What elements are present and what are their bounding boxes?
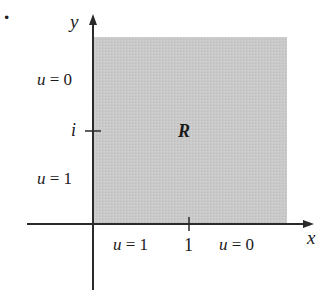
boundary-label-bottom-left: u = 1 bbox=[113, 236, 148, 253]
x-axis-label: x bbox=[307, 228, 315, 247]
y-tick-label-i: i bbox=[71, 121, 76, 139]
boundary-eq: = 0 bbox=[232, 235, 254, 254]
figure-bullet: · bbox=[3, 6, 10, 28]
region-label: R bbox=[178, 122, 190, 140]
diagram-canvas bbox=[0, 0, 328, 292]
y-axis-label: y bbox=[70, 12, 78, 31]
boundary-eq: = 1 bbox=[50, 169, 72, 188]
semi-infinite-strip-diagram: · y x i 1 R u = 0 u = 1 u = 1 u = 0 bbox=[0, 0, 328, 292]
boundary-var: u bbox=[113, 235, 122, 254]
boundary-var: u bbox=[37, 70, 46, 89]
boundary-eq: = 0 bbox=[50, 70, 72, 89]
boundary-label-left-lower: u = 1 bbox=[37, 170, 72, 187]
boundary-eq: = 1 bbox=[126, 235, 148, 254]
boundary-label-bottom-right: u = 0 bbox=[219, 236, 254, 253]
boundary-label-left-upper: u = 0 bbox=[37, 71, 72, 88]
x-tick-label-1: 1 bbox=[184, 236, 193, 254]
boundary-var: u bbox=[219, 235, 228, 254]
boundary-var: u bbox=[37, 169, 46, 188]
y-axis-arrow-icon bbox=[89, 14, 97, 25]
